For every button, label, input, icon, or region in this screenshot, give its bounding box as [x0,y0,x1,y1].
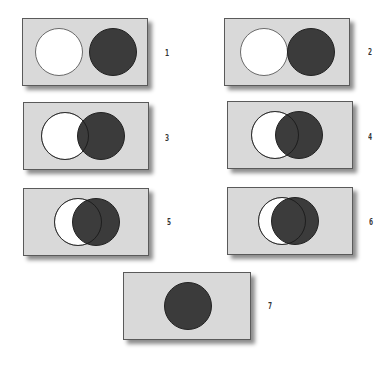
panel-label-7: 7 [268,301,272,311]
white-circle-outline [54,198,102,246]
panel-4 [227,101,353,169]
white-circle [240,28,288,76]
dark-circle [164,282,212,330]
panel-label-6: 6 [369,217,373,227]
panel-7 [123,272,251,340]
panel-label-1: 1 [165,48,169,58]
dark-circle [89,28,137,76]
panel-label-4: 4 [368,132,372,142]
panel-label-2: 2 [368,47,372,57]
panel-6 [227,187,353,255]
white-circle [35,28,83,76]
panel-1 [22,18,148,86]
panel-label-5: 5 [167,217,171,227]
panel-5 [23,188,149,256]
panel-label-3: 3 [165,133,169,143]
panel-3 [23,102,149,170]
white-circle-outline [251,111,299,159]
dark-circle [287,28,335,76]
white-circle-outline [258,197,306,245]
panel-2 [224,18,350,86]
white-circle-outline [41,112,89,160]
